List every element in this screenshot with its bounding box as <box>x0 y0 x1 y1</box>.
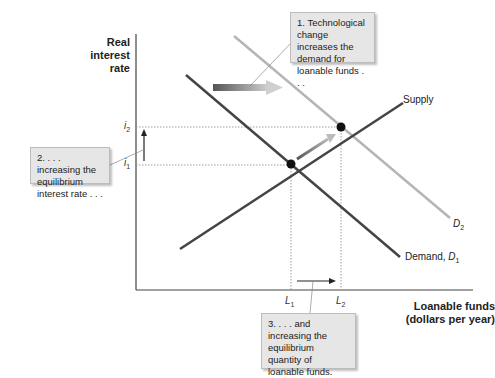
y-axis-title-line: interest <box>70 49 130 62</box>
equilibrium-point-2 <box>337 123 346 132</box>
callout-demand-shift: 1. Technological change increases the de… <box>290 12 375 63</box>
x-axis-title-line: Loanable funds <box>380 300 495 313</box>
interest-rise-arrow-icon <box>141 129 147 161</box>
callout-quantity: 3. . . . and increasing the equilibrium … <box>261 313 356 369</box>
equilibrium-point-1 <box>287 160 296 169</box>
demand-d1-label: Demand, D1 <box>405 251 460 264</box>
y-axis-title: Real interest rate <box>70 36 130 75</box>
quantity-rise-arrow-icon <box>297 278 336 284</box>
demand-d2-label: D2 <box>453 218 464 231</box>
tick-l2: L2 <box>336 295 345 308</box>
x-axis-title: Loanable funds (dollars per year) <box>380 300 495 326</box>
supply-label: Supply <box>403 94 434 105</box>
y-axis-title-line: rate <box>70 62 130 75</box>
demand-shift-arrow-icon <box>213 80 283 95</box>
tick-i2: i2 <box>124 120 130 133</box>
callout-leaders <box>110 44 313 313</box>
x-axis-title-line: (dollars per year) <box>380 313 495 326</box>
equilibrium-move-arrow-icon <box>297 134 336 159</box>
callout-interest-rate: 2. . . . increasing the equilibrium inte… <box>30 147 110 184</box>
tick-i1: i1 <box>124 157 130 170</box>
supply-curve <box>180 103 403 249</box>
y-axis-title-line: Real <box>70 36 130 49</box>
tick-l1: L1 <box>285 295 294 308</box>
